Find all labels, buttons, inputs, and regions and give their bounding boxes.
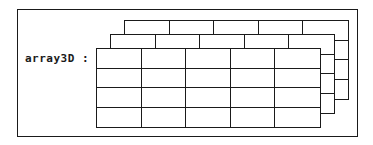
diagram-outer-border: [17, 9, 358, 137]
diagram-screenshot: array3D :: [0, 0, 373, 145]
array-label: array3D :: [25, 52, 89, 65]
